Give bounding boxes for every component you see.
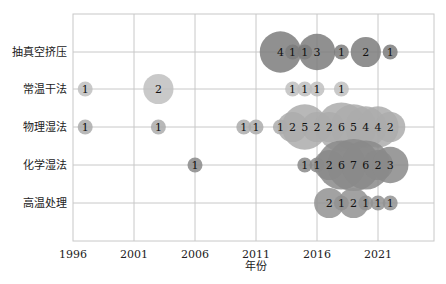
bubble-value-label: 1 bbox=[192, 159, 199, 172]
x-tick-label: 1996 bbox=[59, 248, 87, 261]
bubble-value-label: 6 bbox=[362, 159, 369, 172]
series-4: 212111 bbox=[314, 188, 398, 218]
x-tick-label: 2001 bbox=[120, 248, 148, 261]
x-tick-label: 2021 bbox=[364, 248, 392, 261]
x-tick-label: 2016 bbox=[303, 248, 331, 261]
x-tick-label: 2006 bbox=[181, 248, 209, 261]
bubble-value-label: 2 bbox=[350, 197, 357, 210]
y-category-label: 化学湿法 bbox=[23, 158, 67, 172]
bubble-value-label: 5 bbox=[301, 121, 308, 134]
bubble-layer: 4113121121111111112522654421112676232121… bbox=[78, 31, 409, 218]
bubble-value-label: 2 bbox=[326, 159, 333, 172]
bubble-value-label: 1 bbox=[240, 121, 247, 134]
bubble-value-label: 1 bbox=[375, 197, 382, 210]
y-category-label: 常温干法 bbox=[23, 82, 67, 96]
bubble-value-label: 2 bbox=[326, 197, 333, 210]
bubble-value-label: 2 bbox=[362, 46, 369, 59]
bubble-value-label: 2 bbox=[326, 121, 333, 134]
bubble-value-label: 2 bbox=[387, 121, 394, 134]
y-category-label: 高温处理 bbox=[23, 196, 67, 210]
bubble-value-label: 1 bbox=[301, 83, 308, 96]
y-category-label: 抽真空挤压 bbox=[12, 45, 67, 59]
bubble-value-label: 2 bbox=[155, 83, 162, 96]
y-axis-labels: 抽真空挤压常温干法物理湿法化学湿法高温处理 bbox=[12, 45, 67, 210]
bubble-value-label: 2 bbox=[314, 121, 321, 134]
bubble-value-label: 1 bbox=[314, 83, 321, 96]
bubble-value-label: 1 bbox=[338, 46, 345, 59]
bubble-value-label: 1 bbox=[155, 121, 162, 134]
bubble-value-label: 1 bbox=[387, 46, 394, 59]
bubble-chart: 4113121121111111112522654421112676232121… bbox=[0, 0, 446, 284]
bubble-value-label: 7 bbox=[350, 159, 357, 172]
bubble-value-label: 1 bbox=[253, 121, 260, 134]
bubble-value-label: 2 bbox=[289, 121, 296, 134]
bubble-value-label: 4 bbox=[375, 121, 382, 134]
bubble-value-label: 4 bbox=[277, 46, 284, 59]
bubble-value-label: 1 bbox=[338, 197, 345, 210]
bubble-value-label: 1 bbox=[387, 197, 394, 210]
bubble-value-label: 1 bbox=[338, 83, 345, 96]
x-axis-title: 年份 bbox=[245, 259, 267, 273]
bubble-value-label: 6 bbox=[338, 121, 345, 134]
bubble-value-label: 3 bbox=[387, 159, 394, 172]
bubble-value-label: 1 bbox=[289, 46, 296, 59]
bubble-value-label: 3 bbox=[314, 46, 321, 59]
bubble-value-label: 1 bbox=[277, 121, 284, 134]
bubble-value-label: 1 bbox=[82, 121, 89, 134]
bubble-value-label: 2 bbox=[375, 159, 382, 172]
bubble-value-label: 6 bbox=[338, 159, 345, 172]
series-0: 4113121 bbox=[260, 31, 398, 72]
bubble-value-label: 1 bbox=[314, 159, 321, 172]
bubble-value-label: 4 bbox=[362, 121, 369, 134]
bubble-value-label: 1 bbox=[301, 46, 308, 59]
x-axis-labels: 199620012006201120162021 bbox=[59, 248, 392, 261]
bubble-value-label: 1 bbox=[289, 83, 296, 96]
bubble-value-label: 1 bbox=[82, 83, 89, 96]
bubble-value-label: 1 bbox=[362, 197, 369, 210]
y-category-label: 物理湿法 bbox=[23, 120, 67, 134]
bubble-value-label: 1 bbox=[301, 159, 308, 172]
bubble-value-label: 5 bbox=[350, 121, 357, 134]
